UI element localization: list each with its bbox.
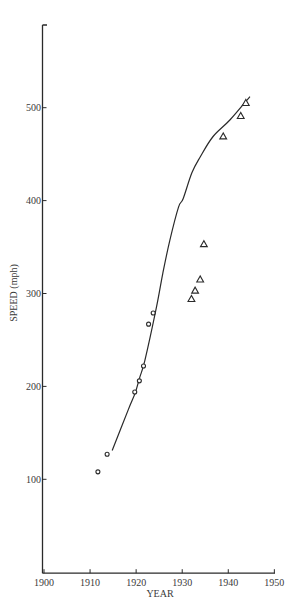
- x-tick-label: 1950: [264, 577, 284, 588]
- y-tick-label: 300: [26, 288, 41, 299]
- trend-curve: [112, 97, 250, 451]
- circle-marker: [96, 470, 100, 474]
- circle-marker: [137, 379, 141, 383]
- y-tick-label: 200: [26, 381, 41, 392]
- x-tick-label: 1900: [34, 577, 54, 588]
- x-tick-label: 1910: [80, 577, 100, 588]
- tick-labels: 190019101920193019401950100200300400500: [26, 102, 284, 588]
- y-tick-label: 400: [26, 195, 41, 206]
- x-tick-label: 1940: [218, 577, 238, 588]
- x-tick-label: 1930: [172, 577, 192, 588]
- triangle-marker: [220, 133, 227, 139]
- axes: [43, 25, 276, 573]
- circle-marker: [133, 390, 137, 394]
- triangle-marker: [200, 241, 207, 247]
- x-axis-title: YEAR: [146, 588, 174, 599]
- circle-marker: [151, 311, 155, 315]
- chart-canvas: 190019101920193019401950100200300400500 …: [0, 0, 293, 606]
- speed-vs-year-chart: 190019101920193019401950100200300400500 …: [0, 0, 293, 606]
- circle-markers: [96, 311, 155, 474]
- triangle-marker: [197, 276, 204, 282]
- triangle-marker: [192, 287, 199, 293]
- tick-marks: [43, 108, 275, 574]
- triangle-marker: [237, 112, 244, 118]
- triangle-markers: [188, 99, 249, 301]
- y-axis-title: SPEED (mph): [8, 264, 20, 322]
- y-tick-label: 500: [26, 102, 41, 113]
- triangle-marker: [188, 295, 195, 301]
- trend-curve-path: [112, 97, 250, 451]
- y-tick-label: 100: [26, 474, 41, 485]
- x-tick-label: 1920: [126, 577, 146, 588]
- triangle-marker: [242, 99, 249, 105]
- circle-marker: [147, 322, 151, 326]
- circle-marker: [142, 364, 146, 368]
- circle-marker: [105, 452, 109, 456]
